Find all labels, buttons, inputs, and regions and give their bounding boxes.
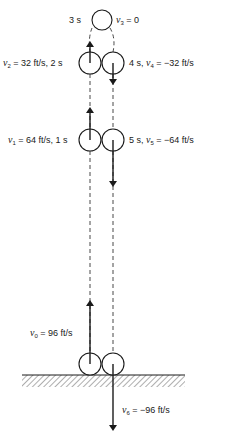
label-v4: 4 s, v4 = −32 ft/s xyxy=(129,58,194,71)
ground xyxy=(22,375,185,387)
ball-top-3s xyxy=(92,10,112,30)
trajectory-dashed-lines xyxy=(89,28,114,354)
label-v2: v2 = 32 ft/s, 2 s xyxy=(3,58,63,71)
label-v3: v3 = 0 xyxy=(116,15,139,28)
ball-positions xyxy=(79,10,124,375)
label-v5: 5 s, v5 = −64 ft/s xyxy=(129,135,194,148)
label-v6: v6 = −96 ft/s xyxy=(122,405,170,418)
label-3s: 3 s xyxy=(69,15,81,25)
label-v0: v0 = 96 ft/s xyxy=(30,328,73,341)
label-v1: v1 = 64 ft/s, 1 s xyxy=(8,135,68,148)
